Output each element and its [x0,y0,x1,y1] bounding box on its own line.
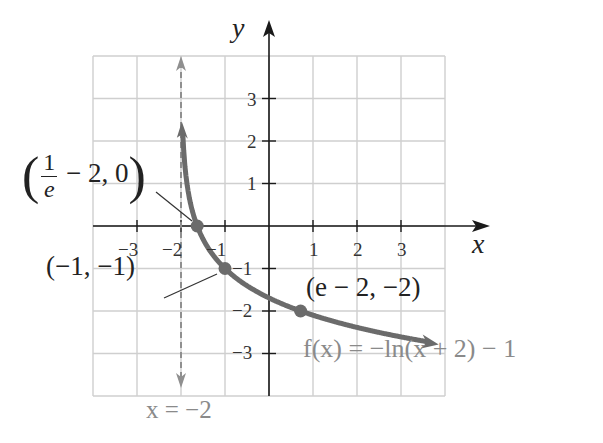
x-tick-label: 1 [309,240,319,259]
point-label-neg1-neg1: (−1, −1) [46,253,135,280]
x-tick-label: 3 [397,240,407,259]
point-label-rest: − 2, 0 [59,158,128,188]
fraction-denominator: e [44,177,55,202]
point-label-x-intercept: (1e − 2, 0) [22,150,146,202]
y-tick-label: 1 [247,174,257,193]
leader-line-neg1-neg1 [164,274,217,298]
y-tick-label: −1 [232,259,252,278]
plot-area [0,0,603,443]
graph-figure: y x −3 −2 −1 1 2 3 3 2 1 −1 −2 −3 (1e − … [0,0,603,443]
key-point-marker [294,305,307,318]
function-curve [177,122,439,349]
point-label-e-minus-2: (e − 2, −2) [306,274,420,301]
y-axis-label: y [232,14,244,42]
x-axis-label: x [472,230,484,258]
x-tick-label: −1 [206,240,226,259]
fraction-numerator: 1 [41,150,57,176]
x-tick-label: 2 [353,240,363,259]
key-point-marker [219,262,232,275]
y-tick-label: −2 [232,301,252,320]
key-point-marker [191,220,204,233]
x-tick-label: −2 [162,240,182,259]
function-label: f(x) = −ln(x + 2) − 1 [303,336,516,362]
y-tick-label: 2 [247,132,257,151]
y-tick-label: −3 [232,343,252,362]
y-tick-label: 3 [247,90,257,109]
asymptote-label: x = −2 [146,397,212,422]
